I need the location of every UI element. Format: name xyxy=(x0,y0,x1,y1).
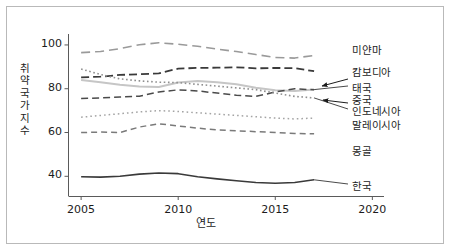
x-axis-tick-label: 2015 xyxy=(250,203,300,216)
series-label-캄보디아: 캄보디아 xyxy=(352,64,391,79)
annotation-arrows xyxy=(322,79,348,103)
y-axis-ticks xyxy=(65,45,69,176)
x-axis-label: 연도 xyxy=(196,214,216,230)
series-line xyxy=(81,67,314,77)
series-line xyxy=(81,43,314,58)
arrow-indonesia xyxy=(323,100,348,103)
series-label-connector xyxy=(314,98,348,109)
series-label-인도네시아: 인도네시아 xyxy=(352,103,401,118)
y-axis-tick-label: 100 xyxy=(30,37,62,50)
series-line xyxy=(81,111,314,119)
series-lines xyxy=(81,43,348,184)
y-axis-tick-label: 80 xyxy=(30,81,62,94)
series-line xyxy=(81,124,314,134)
x-axis-tick-label: 2005 xyxy=(56,203,106,216)
y-axis-label-char: 지 xyxy=(18,112,32,124)
series-label-한국: 한국 xyxy=(352,178,372,193)
arrow-thailand xyxy=(322,79,348,86)
series-label-몽골: 몽골 xyxy=(352,143,372,158)
y-axis-tick-label: 60 xyxy=(30,125,62,138)
x-axis-tick-label: 2020 xyxy=(347,203,397,216)
series-label-말레이시아: 말레이시아 xyxy=(352,117,401,132)
series-label-connector xyxy=(314,180,348,184)
y-axis-label-char: 가 xyxy=(18,99,32,111)
series-line xyxy=(81,80,314,91)
series-label-미얀마: 미얀마 xyxy=(352,42,381,57)
series-line xyxy=(81,173,314,183)
y-axis-tick-label: 40 xyxy=(30,168,62,181)
axis-lines xyxy=(69,34,385,197)
x-axis-tick-label: 2010 xyxy=(153,203,203,216)
y-axis-label-char: 취 xyxy=(18,62,32,74)
series-label-connector xyxy=(314,86,348,90)
